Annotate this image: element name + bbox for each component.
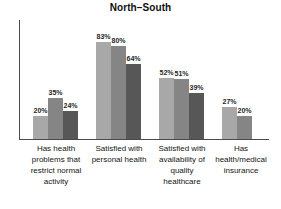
bar-item[interactable]: 51%	[174, 20, 189, 139]
bar-value-label: 27%	[222, 98, 236, 106]
bar-value-label: 64%	[126, 55, 140, 63]
bar[interactable]	[174, 79, 189, 139]
y-axis-line	[19, 20, 20, 140]
category-label: Has healthproblems thatrestrict normalac…	[23, 143, 89, 187]
chart-container: North–South 20%35%24%83%80%64%52%51%39%2…	[0, 0, 281, 209]
category-axis-labels: Has healthproblems thatrestrict normalac…	[19, 143, 274, 205]
bar[interactable]	[48, 98, 63, 139]
bar-value-label: 80%	[111, 37, 125, 45]
bar-value-label: 83%	[96, 33, 110, 41]
bar-item[interactable]: 64%	[126, 20, 141, 139]
bar-value-label: 20%	[33, 107, 47, 115]
bar-item[interactable]: 35%	[48, 20, 63, 139]
bar[interactable]	[96, 42, 111, 139]
bar-item[interactable]: 24%	[63, 20, 78, 139]
bar-value-label: 39%	[189, 84, 203, 92]
bar[interactable]	[237, 116, 252, 139]
bar-value-label: 51%	[174, 70, 188, 78]
chart-title: North–South	[0, 2, 281, 13]
bar[interactable]	[159, 78, 174, 139]
bar-value-label: 35%	[48, 89, 62, 97]
bar-item[interactable]: 52%	[159, 20, 174, 139]
bar-value-label: 52%	[159, 69, 173, 77]
category-label: Hashealth/medicalinsurance	[208, 143, 274, 176]
bar-item[interactable]: 39%	[189, 20, 204, 139]
bar-value-label: 20%	[237, 107, 251, 115]
bar[interactable]	[222, 107, 237, 139]
bar[interactable]	[189, 93, 204, 139]
plot-area: 20%35%24%83%80%64%52%51%39%27%20%	[19, 20, 269, 140]
bar-item[interactable]: 83%	[96, 20, 111, 139]
bar-item[interactable]: 20%	[33, 20, 48, 139]
bar[interactable]	[111, 46, 126, 139]
bar[interactable]	[33, 116, 48, 139]
bar[interactable]	[63, 111, 78, 139]
bar-item[interactable]: 80%	[111, 20, 126, 139]
category-label: Satisfied withavailability ofqualityheal…	[149, 143, 215, 187]
bar[interactable]	[126, 64, 141, 139]
bar-value-label: 24%	[63, 102, 77, 110]
bar-item[interactable]: 27%	[222, 20, 237, 139]
bar-item[interactable]: 20%	[237, 20, 252, 139]
category-label: Satisfied withpersonal health	[86, 143, 152, 165]
x-axis-line	[19, 139, 269, 140]
